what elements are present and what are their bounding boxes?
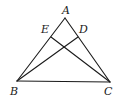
point-label-a: A [61, 4, 70, 17]
segment-BC [17, 81, 110, 82]
triangle-diagram: ABCED [0, 0, 113, 98]
point-label-c: C [104, 85, 113, 98]
point-label-b: B [9, 85, 18, 98]
segment-CE [51, 37, 110, 82]
point-label-e: E [40, 23, 49, 36]
segment-BD [17, 37, 78, 81]
point-label-d: D [78, 23, 88, 36]
